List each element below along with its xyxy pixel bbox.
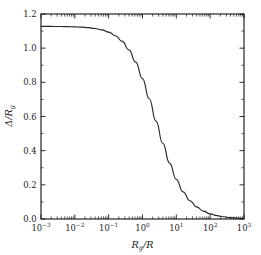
y-tick-label: 0.4 [23, 146, 36, 156]
y-tick-label: 0.8 [23, 77, 36, 87]
y-tick-label: 1.0 [23, 43, 36, 53]
y-tick-label: 1.2 [23, 9, 36, 19]
y-tick-label: 0.0 [23, 214, 36, 224]
y-tick-label: 0.2 [23, 180, 36, 190]
chart-canvas: 10−310−210−1100101102103 0.00.20.40.60.8… [0, 0, 261, 255]
y-tick-label: 0.6 [23, 112, 36, 122]
chart-figure: 10−310−210−1100101102103 0.00.20.40.60.8… [0, 0, 261, 255]
